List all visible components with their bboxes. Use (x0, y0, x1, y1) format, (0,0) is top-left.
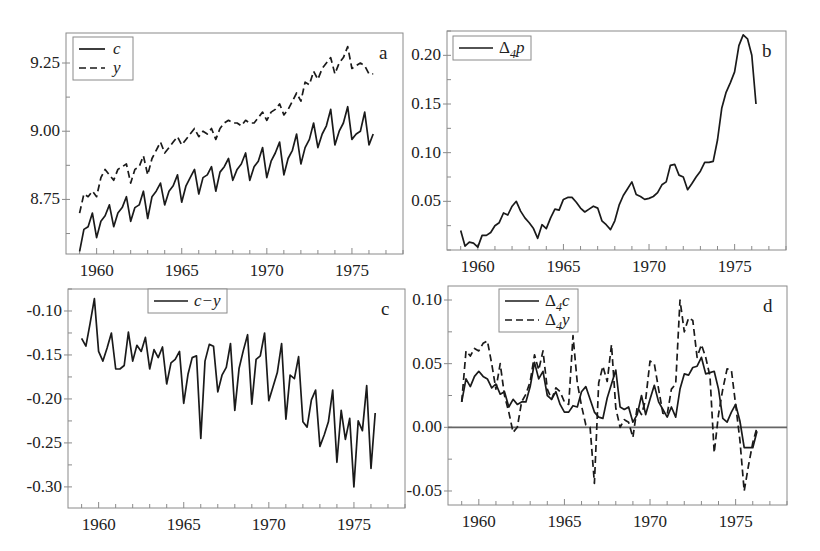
y-tick-label: 0.15 (411, 94, 441, 113)
panel-letter: a (379, 42, 388, 63)
y-tick-label: 0.00 (412, 417, 442, 436)
x-tick-label: 1970 (632, 257, 666, 276)
x-tick-label: 1960 (462, 512, 496, 531)
y-tick-label: 9.25 (30, 53, 60, 72)
panel-d: 1960196519701975-0.050.000.050.10dΔ4cΔ4y (407, 286, 787, 531)
y-tick-label: -0.25 (27, 433, 62, 452)
y-tick-label: 0.10 (412, 290, 442, 309)
legend: Δ4cΔ4y (499, 289, 578, 333)
y-tick-label: 0.10 (411, 143, 441, 162)
legend-label: y (111, 58, 121, 77)
series-line-c-solid (80, 107, 374, 252)
panel-letter: c (381, 298, 389, 319)
y-tick-label: -0.15 (27, 345, 62, 364)
x-tick-label: 1960 (80, 261, 114, 280)
y-tick-label: 9.00 (30, 121, 60, 140)
legend: Δ4p (453, 36, 531, 61)
x-tick-label: 1970 (250, 261, 284, 280)
legend-label: c−y (194, 291, 221, 310)
panel-c: 1960196519701975-0.10-0.15-0.20-0.25-0.3… (27, 289, 405, 534)
y-tick-label: -0.30 (27, 477, 62, 496)
four-panel-time-series-figure: 19601965197019758.759.009.25acy196019651… (0, 0, 820, 551)
x-tick-label: 1970 (633, 512, 667, 531)
x-tick-label: 1975 (337, 515, 371, 534)
panel-letter: d (763, 295, 773, 316)
panel-b: 19601965197019750.050.100.150.20bΔ4p (411, 31, 786, 276)
y-tick-label: -0.10 (27, 301, 62, 320)
x-tick-label: 1975 (335, 261, 369, 280)
panel-letter: b (762, 40, 772, 61)
x-tick-label: 1960 (461, 257, 495, 276)
x-tick-label: 1975 (719, 512, 753, 531)
legend: c−y (148, 289, 227, 313)
x-tick-label: 1965 (167, 515, 201, 534)
legend-label: c (113, 39, 121, 58)
x-tick-label: 1960 (82, 515, 116, 534)
legend: cy (73, 37, 133, 80)
y-tick-label: 0.20 (411, 45, 441, 64)
y-tick-label: -0.20 (27, 389, 62, 408)
y-tick-label: 0.05 (411, 191, 441, 210)
x-tick-label: 1965 (165, 261, 199, 280)
series-line-cy-solid (82, 299, 376, 487)
x-tick-label: 1965 (546, 257, 580, 276)
x-tick-label: 1975 (718, 257, 752, 276)
x-tick-label: 1965 (547, 512, 581, 531)
legend-box (73, 37, 133, 80)
series-line-4p-solid (461, 35, 756, 247)
y-tick-label: 0.05 (412, 354, 442, 373)
y-tick-label: 8.75 (30, 189, 60, 208)
figure: 19601965197019758.759.009.25acy196019651… (0, 0, 820, 551)
x-tick-label: 1970 (252, 515, 286, 534)
panel-a: 19601965197019758.759.009.25acy (30, 33, 403, 280)
y-tick-label: -0.05 (407, 481, 442, 500)
